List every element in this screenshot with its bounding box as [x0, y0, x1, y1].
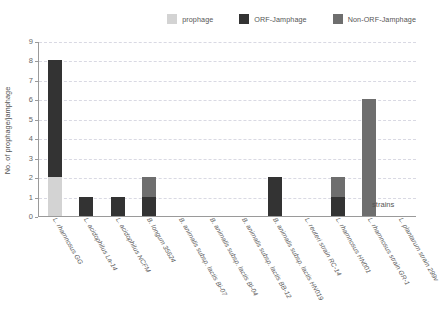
bar-stack[interactable]	[331, 177, 345, 216]
y-tick-label: 7	[29, 77, 33, 85]
y-tick-mark	[35, 120, 38, 121]
legend-swatch-icon	[239, 14, 249, 24]
y-tick-mark	[35, 198, 38, 199]
y-tick-label: 5	[29, 116, 33, 124]
x-label-slot: L. rhamnosus HN001	[323, 218, 355, 328]
x-tick-label: L. plantarum strain 299v	[398, 216, 440, 282]
x-label-slot: L. acidophilus NCFM	[102, 218, 134, 328]
bar-slot	[353, 42, 384, 216]
legend-label: ORF-Jamphage	[254, 15, 306, 24]
x-axis-tick-labels: L. rhamnosus GGL. acidophilus La-14L. ac…	[39, 218, 417, 328]
x-label-slot: L. rhamnosus strain GR-1	[354, 218, 386, 328]
y-tick-mark	[35, 61, 38, 62]
bar-stack[interactable]	[362, 99, 376, 216]
bar-segment[interactable]	[362, 99, 376, 216]
x-label-slot: B. animalis subsp. lactis HN019	[260, 218, 292, 328]
bar-slot	[165, 42, 196, 216]
bar-stack[interactable]	[48, 60, 62, 216]
bar-segment[interactable]	[331, 197, 345, 216]
bar-segment[interactable]	[142, 197, 156, 216]
bar-segment[interactable]	[111, 197, 125, 216]
y-tick-label: 3	[29, 155, 33, 163]
y-tick-label: 9	[29, 38, 33, 46]
x-label-slot: L. acidophilus La-14	[71, 218, 103, 328]
bar-slot	[290, 42, 321, 216]
x-label-slot: B. animalis subsp. lactis Bi-07	[165, 218, 197, 328]
y-tick-mark	[35, 139, 38, 140]
bar-slot	[133, 42, 164, 216]
bar-slot	[385, 42, 416, 216]
bar-segment[interactable]	[142, 177, 156, 196]
y-tick-label: 1	[29, 194, 33, 202]
x-axis-line	[38, 216, 416, 217]
x-label-slot: L. rhamnosus GG	[39, 218, 71, 328]
x-label-slot: L. reuteri strain RC-14	[291, 218, 323, 328]
y-axis-title: No. of prophage/jamphage	[2, 48, 14, 213]
x-label-slot: B. animalis subsp. lactis BB-12	[228, 218, 260, 328]
legend-non-orf-jamphage: Non-ORF-Jamphage	[333, 14, 416, 24]
bar-stack[interactable]	[79, 197, 93, 216]
bar-stack[interactable]	[268, 177, 282, 216]
bar-group	[39, 42, 416, 216]
y-tick-label: 0	[29, 213, 33, 221]
chart-legend: prophageORF-JamphageNon-ORF-Jamphage	[0, 14, 426, 24]
bar-stack[interactable]	[111, 197, 125, 216]
bar-slot	[228, 42, 259, 216]
bar-segment[interactable]	[331, 177, 345, 196]
legend-label: Non-ORF-Jamphage	[348, 15, 416, 24]
bar-segment[interactable]	[48, 60, 62, 177]
legend-label: prophage	[182, 15, 213, 24]
y-tick-label: 4	[29, 135, 33, 143]
bar-slot	[39, 42, 70, 216]
y-tick-mark	[35, 81, 38, 82]
y-tick-mark	[35, 42, 38, 43]
y-tick-mark	[35, 178, 38, 179]
x-label-slot: B. animalis subsp. lactis Bl-04	[197, 218, 229, 328]
bar-segment[interactable]	[268, 177, 282, 216]
x-axis-title: strains	[372, 200, 394, 209]
bar-slot	[196, 42, 227, 216]
legend-prophage: prophage	[167, 14, 213, 24]
bar-stack[interactable]	[142, 177, 156, 216]
y-tick-mark	[35, 217, 38, 218]
legend-swatch-icon	[167, 14, 177, 24]
bar-slot	[70, 42, 101, 216]
y-axis-title-text: No. of prophage/jamphage	[4, 87, 13, 175]
y-tick-label: 6	[29, 97, 33, 105]
bar-slot	[102, 42, 133, 216]
y-tick-mark	[35, 100, 38, 101]
x-label-slot: B. longum 35624	[134, 218, 166, 328]
x-label-slot: L. plantarum strain 299v	[386, 218, 418, 328]
bar-slot	[259, 42, 290, 216]
legend-orf-jamphage: ORF-Jamphage	[239, 14, 306, 24]
bar-segment[interactable]	[48, 177, 62, 216]
bar-segment[interactable]	[79, 197, 93, 216]
y-tick-mark	[35, 159, 38, 160]
plot-area: 0123456789	[38, 42, 416, 217]
legend-swatch-icon	[333, 14, 343, 24]
bar-slot	[322, 42, 353, 216]
y-tick-label: 8	[29, 58, 33, 66]
y-tick-label: 2	[29, 174, 33, 182]
